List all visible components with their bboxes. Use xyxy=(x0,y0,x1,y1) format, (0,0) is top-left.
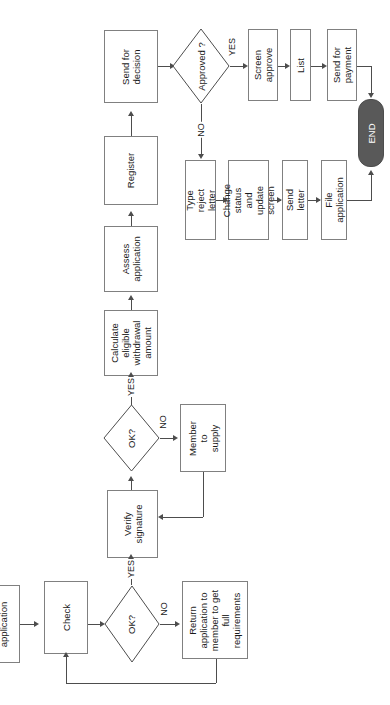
node-send-letter[interactable]: Send letter xyxy=(282,160,308,240)
node-return-application-label: Return application to member to get full… xyxy=(188,589,243,650)
node-change-status-label: Change status and update screen xyxy=(221,181,276,220)
arrowhead-ok2-no xyxy=(173,435,178,441)
arrowhead-application-to-check xyxy=(34,621,39,627)
node-file-application-label: File application xyxy=(323,177,345,222)
node-assess-application[interactable]: Assess application xyxy=(104,226,158,292)
node-member-to-supply-label: Member to supply xyxy=(187,416,220,460)
arrowhead-register-to-decision xyxy=(128,111,134,116)
connector-register-to-decision xyxy=(131,115,132,136)
node-register[interactable]: Register xyxy=(104,136,158,205)
edge-label-ok1-no: NO xyxy=(159,601,169,617)
node-send-for-decision[interactable]: Send for decision xyxy=(104,30,158,103)
node-send-for-payment[interactable]: Send for payment xyxy=(327,29,357,101)
node-member-to-supply[interactable]: Member to supply xyxy=(180,404,226,472)
decision-approved[interactable]: Approved ? xyxy=(172,28,230,104)
decision-approved-label: Approved ? xyxy=(196,42,207,91)
node-verify-signature[interactable]: Verify signature xyxy=(107,490,158,558)
connector-payment-to-end-v xyxy=(371,66,372,96)
node-check-label: Check xyxy=(61,604,72,631)
node-screen-approve[interactable]: Screen approve xyxy=(248,29,278,101)
node-register-label: Register xyxy=(126,153,137,188)
node-send-for-payment-label: Send for payment xyxy=(331,47,353,83)
node-change-status[interactable]: Change status and update screen xyxy=(228,160,269,240)
edge-label-ok2-yes: YES xyxy=(126,377,136,397)
node-screen-approve-label: Screen approve xyxy=(252,48,274,82)
flowchart-canvas: Send for decision Approved ? YES Screen … xyxy=(0,0,390,705)
decision-ok-1[interactable]: OK? xyxy=(104,585,160,663)
node-calculate-eligible-amount[interactable]: Calculate eligible withdrawal amount xyxy=(104,310,158,376)
connector-member-back-v xyxy=(203,472,204,517)
node-list[interactable]: List xyxy=(290,29,311,101)
connector-file-to-end-h xyxy=(347,200,372,201)
node-type-reject-letter-label: Type reject letter xyxy=(184,186,217,215)
edge-label-ok1-yes: YES xyxy=(126,559,136,579)
arrowhead-payment-to-end xyxy=(368,93,374,98)
node-end-label: END xyxy=(366,123,377,143)
arrowhead-return-loop xyxy=(63,652,69,657)
node-application-label: application xyxy=(0,601,10,646)
node-return-application[interactable]: Return application to member to get full… xyxy=(182,581,248,659)
node-send-for-decision-label: Send for decision xyxy=(120,49,142,85)
decision-ok-1-label: OK? xyxy=(126,614,137,633)
edge-label-ok2-no: NO xyxy=(158,414,168,430)
node-type-reject-letter[interactable]: Type reject letter xyxy=(185,160,216,240)
connector-file-to-end-v xyxy=(371,175,372,200)
edge-label-approved-yes: YES xyxy=(227,37,237,57)
arrowhead-calculate-to-assess xyxy=(128,295,134,300)
node-check[interactable]: Check xyxy=(44,581,88,654)
node-calculate-eligible-amount-label: Calculate eligible withdrawal amount xyxy=(109,321,153,366)
arrowhead-assess-to-register xyxy=(128,211,134,216)
arrowhead-file-to-end xyxy=(368,170,374,175)
decision-ok-2[interactable]: OK? xyxy=(103,404,160,472)
node-list-label: List xyxy=(295,58,306,73)
node-send-letter-label: Send letter xyxy=(284,188,306,212)
arrowhead-verify-to-ok2 xyxy=(128,476,134,481)
connector-payment-to-end-h xyxy=(357,66,372,67)
connector-return-loop-v xyxy=(216,659,217,683)
edge-label-approved-no: NO xyxy=(196,122,206,138)
node-assess-application-label: Assess application xyxy=(120,236,142,281)
arrowhead-member-back xyxy=(158,514,163,520)
arrowhead-approved-no xyxy=(198,154,204,159)
node-file-application[interactable]: File application xyxy=(321,160,347,240)
connector-member-back-h xyxy=(163,517,203,518)
node-verify-signature-label: Verify signature xyxy=(122,504,144,543)
connector-return-loop-h xyxy=(66,683,216,684)
node-application[interactable]: application xyxy=(0,585,20,663)
decision-ok-2-label: OK? xyxy=(126,428,137,447)
connector-return-loop-up xyxy=(66,657,67,683)
node-end-terminator[interactable]: END xyxy=(358,99,384,167)
arrowhead-ok1-no xyxy=(175,621,180,627)
